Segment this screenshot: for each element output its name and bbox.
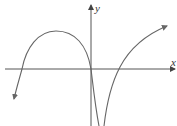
left-branch-curve	[14, 31, 99, 126]
right-branch-curve	[104, 26, 167, 126]
function-graph: y x	[0, 0, 177, 126]
y-axis-label: y	[94, 2, 100, 14]
x-axis-label: x	[170, 56, 176, 68]
